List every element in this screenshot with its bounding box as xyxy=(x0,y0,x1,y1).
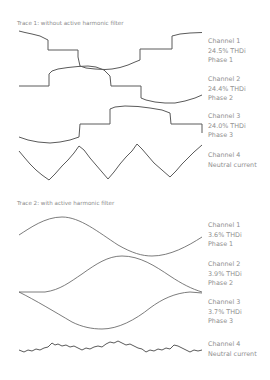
trace2-channel4-waveform xyxy=(19,341,202,352)
trace1-channel3-waveform xyxy=(19,106,202,143)
trace2-channel1-waveform xyxy=(19,217,202,256)
waveform-plot xyxy=(0,0,270,380)
trace2-channel3-waveform xyxy=(19,292,202,329)
trace1-channel1-waveform xyxy=(19,31,202,70)
trace2-channel2-waveform xyxy=(19,256,202,292)
trace1-channel2-waveform xyxy=(19,66,202,103)
trace1-channel4-waveform xyxy=(19,144,202,180)
